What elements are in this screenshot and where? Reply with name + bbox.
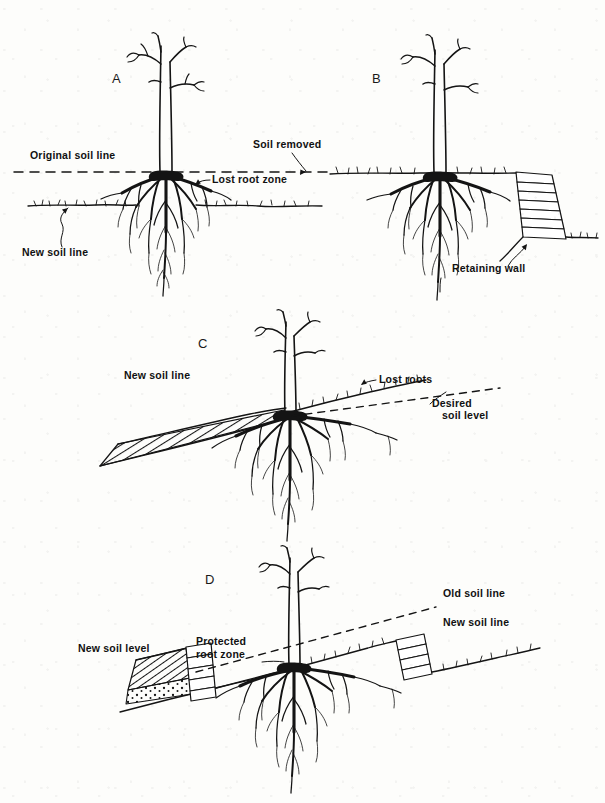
tree-d-roots bbox=[216, 663, 401, 793]
label-desired-line-2-c: soil level bbox=[442, 409, 488, 421]
tree-b-roots bbox=[367, 172, 510, 300]
root-zone-diagram: A bbox=[0, 0, 605, 803]
label-new-soil-level-d: New soil level bbox=[78, 642, 150, 654]
panel-b-letter: B bbox=[372, 71, 381, 86]
leader-new-soil-line-a bbox=[61, 208, 68, 247]
label-original-soil-line-a: Original soil line bbox=[30, 149, 115, 161]
panel-d: D bbox=[78, 546, 540, 793]
panel-a: A bbox=[14, 33, 330, 296]
label-lost-roots-c: Lost roots bbox=[379, 373, 432, 385]
label-old-soil-line-d: Old soil line bbox=[443, 587, 505, 599]
retaining-wall-right-d bbox=[396, 634, 540, 680]
leader-protected-root-zone-d bbox=[262, 661, 284, 662]
panel-c-letter: C bbox=[198, 336, 207, 351]
label-soil-removed-a: Soil removed bbox=[253, 138, 321, 150]
label-protected-line-2-d: root zone bbox=[196, 648, 245, 660]
panel-a-letter: A bbox=[112, 71, 121, 86]
original-grade-b bbox=[330, 167, 516, 174]
label-desired-line-1-c: Desired bbox=[432, 397, 472, 409]
tree-d-canopy bbox=[259, 546, 329, 665]
tree-a-canopy bbox=[127, 33, 204, 172]
leader-soil-removed-a bbox=[292, 153, 306, 171]
label-lost-root-zone-a: Lost root zone bbox=[212, 173, 287, 185]
tree-b-canopy bbox=[401, 35, 478, 173]
tree-c-canopy bbox=[255, 310, 325, 413]
label-retaining-wall-b: Retaining wall bbox=[452, 262, 525, 274]
label-protected-line-1-d: Protected bbox=[196, 635, 246, 647]
new-soil-line-a bbox=[28, 200, 322, 207]
label-new-soil-line-a: New soil line bbox=[22, 246, 88, 258]
label-new-soil-line-c: New soil line bbox=[124, 369, 190, 381]
tree-a-roots bbox=[101, 171, 231, 296]
panel-c: C bbox=[100, 310, 500, 541]
panel-b: B bbox=[330, 35, 598, 300]
retaining-wall-b bbox=[500, 172, 598, 261]
panel-d-letter: D bbox=[205, 572, 214, 587]
label-new-soil-line-d: New soil line bbox=[443, 616, 509, 628]
